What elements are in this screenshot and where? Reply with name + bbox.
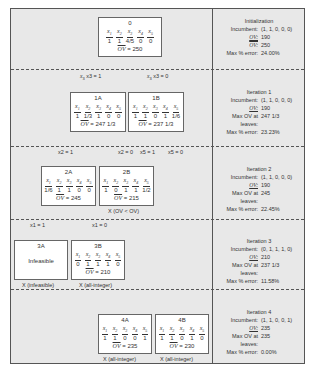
variable-value: x21 — [85, 251, 92, 268]
variable-value: x11 — [106, 28, 113, 45]
variable-value: x50 — [115, 251, 122, 268]
tree-node-2B: 2Bx11x20x31x41x51/2OV = 215 — [99, 166, 154, 206]
stats-iteration-3: Iteration 3Incumbent:(0, 1, 1, 1, 0)OV:2… — [214, 237, 304, 285]
level-divider — [11, 69, 304, 70]
node-id: 2B — [100, 169, 153, 176]
tree-node-3B: 3Bx10x21x31x41x50OV = 210 — [71, 240, 125, 280]
stats-row: OV:210 — [214, 253, 304, 261]
pruned-note: X (infeasible) — [22, 282, 54, 288]
objective-value: OV = 250 — [99, 46, 161, 53]
stats-row: OV:190 — [214, 104, 304, 112]
variable-value: x50 — [147, 28, 154, 45]
stats-iteration-2: Iteration 2Incumbent:(1, 1, 0, 0, 0)OV:1… — [214, 165, 304, 213]
branch-label: x2 = 1 — [58, 149, 73, 155]
variable-value: x11/6 — [44, 177, 52, 194]
variable-value: x31 — [95, 103, 102, 120]
variable-value: x11 — [102, 325, 109, 342]
variable-value: x51 — [142, 325, 149, 342]
stats-row: OV:190 — [214, 181, 304, 189]
variable-value: x51/2 — [142, 177, 150, 194]
variable-value: x11 — [159, 325, 166, 342]
variable-value: x41 — [105, 251, 112, 268]
tree-node-0: 0x11x21x34/5x40x50OV = 250 — [98, 17, 162, 57]
branch-label: x3 x3 = 1 — [80, 73, 101, 81]
variable-value: x50 — [115, 103, 122, 120]
branch-label: x3 x3 = 0 — [147, 73, 168, 81]
objective-value: OV = 247 1/3 — [71, 121, 125, 128]
variable-value: x11 — [74, 103, 81, 120]
objective-value: OV = 210 — [72, 269, 124, 276]
node-id: 3B — [72, 243, 124, 250]
column-divider — [212, 8, 213, 364]
tree-node-3A: 3A Infeasible — [14, 240, 68, 280]
stats-row: Max OV at leaves:245 — [214, 189, 304, 205]
pruned-note: X (all-integer) — [160, 356, 193, 362]
node-id: 4A — [99, 317, 151, 324]
stats-initialization: InitializationIncumbent:(1, 1, 0, 0, 0)O… — [214, 17, 304, 57]
variable-value: x21 — [142, 103, 149, 120]
branch-label: x2 = 0 — [118, 149, 133, 155]
stats-row: Max % error:11.58% — [214, 277, 304, 285]
infeasible-label: Infeasible — [15, 258, 67, 265]
objective-value: OV = 245 — [42, 195, 95, 202]
stats-row: Max % error:24.00% — [214, 49, 304, 57]
variable-value: x41 — [132, 177, 139, 194]
pruned-note: X (OV < OV) — [108, 208, 139, 214]
variable-value: x40 — [137, 28, 144, 45]
branch-label: x1 = 0 — [92, 222, 107, 228]
variable-value: x11 — [102, 177, 109, 194]
variable-value: x51/6 — [172, 103, 180, 120]
node-id: 3A — [15, 243, 67, 250]
variable-value: x30 — [152, 103, 159, 120]
stats-row: Incumbent:(1, 1, 0, 0, 0) — [214, 96, 304, 104]
variable-value: x40 — [105, 103, 112, 120]
stats-row: Max % error:0.00% — [214, 348, 304, 356]
tree-node-1A: 1Ax11x21/3x31x40x50OV = 247 1/3 — [70, 92, 126, 132]
variable-value: x30 — [122, 325, 129, 342]
stats-title: Initialization — [214, 17, 304, 25]
variable-value: x40 — [76, 177, 83, 194]
variable-value: x40 — [132, 325, 139, 342]
variable-value: x31 — [95, 251, 102, 268]
variable-value: x20 — [112, 177, 119, 194]
stats-iteration-4: Iteration 4Incumbent:(1, 1, 0, 0, 1)OV:2… — [214, 308, 304, 356]
variable-value: x41 — [162, 103, 169, 120]
variable-value: x31 — [66, 177, 73, 194]
variable-value: x31 — [122, 177, 129, 194]
stats-title: Iteration 3 — [214, 237, 304, 245]
variable-value: x21 — [56, 177, 63, 194]
stats-row: Incumbent:(0, 1, 1, 1, 0) — [214, 245, 304, 253]
variable-value: x41 — [189, 325, 196, 342]
tree-node-2A: 2Ax11/6x21x31x40x50OV = 245 — [41, 166, 96, 206]
tree-node-1B: 1Bx11x21x30x41x51/6OV = 237 1/3 — [128, 92, 184, 132]
stats-row: Incumbent:(1, 1, 0, 0, 1) — [214, 316, 304, 324]
variable-value: x10 — [75, 251, 82, 268]
node-id: 2A — [42, 169, 95, 176]
objective-value: OV = 230 — [156, 343, 208, 350]
stats-row: Incumbent:(1, 1, 0, 0, 0) — [214, 173, 304, 181]
branch-label: x5 = 0 — [168, 149, 183, 155]
variable-value: x50 — [199, 325, 206, 342]
variable-value: x21 — [116, 28, 123, 45]
stats-row: Max OV at leaves:247 1/3 — [214, 112, 304, 128]
stats-title: Iteration 2 — [214, 165, 304, 173]
stats-row: Max % error:22.45% — [214, 205, 304, 213]
level-divider — [11, 219, 304, 220]
tree-node-4B: 4Bx11x21x30x41x50OV = 230 — [155, 314, 209, 354]
stats-row: Incumbent:(1, 1, 0, 0, 0) — [214, 25, 304, 33]
level-divider — [11, 146, 304, 147]
stats-title: Iteration 1 — [214, 88, 304, 96]
variable-value: x21 — [112, 325, 119, 342]
variable-value: x11 — [132, 103, 139, 120]
stats-row: OV:235 — [214, 324, 304, 332]
stats-iteration-1: Iteration 1Incumbent:(1, 1, 0, 0, 0)OV:1… — [214, 88, 304, 136]
variable-value: x21 — [169, 325, 176, 342]
tree-node-4A: 4Ax11x21x30x40x51OV = 235 — [98, 314, 152, 354]
stats-row: OV:250 — [214, 41, 304, 49]
variable-value: x34/5 — [126, 28, 134, 45]
node-id: 1A — [71, 95, 125, 102]
stats-row: Max OV at leaves:235 — [214, 332, 304, 348]
objective-value: OV = 215 — [100, 195, 153, 202]
pruned-note: X (all-integer) — [103, 356, 136, 362]
branch-label: x1 = 1 — [30, 222, 45, 228]
